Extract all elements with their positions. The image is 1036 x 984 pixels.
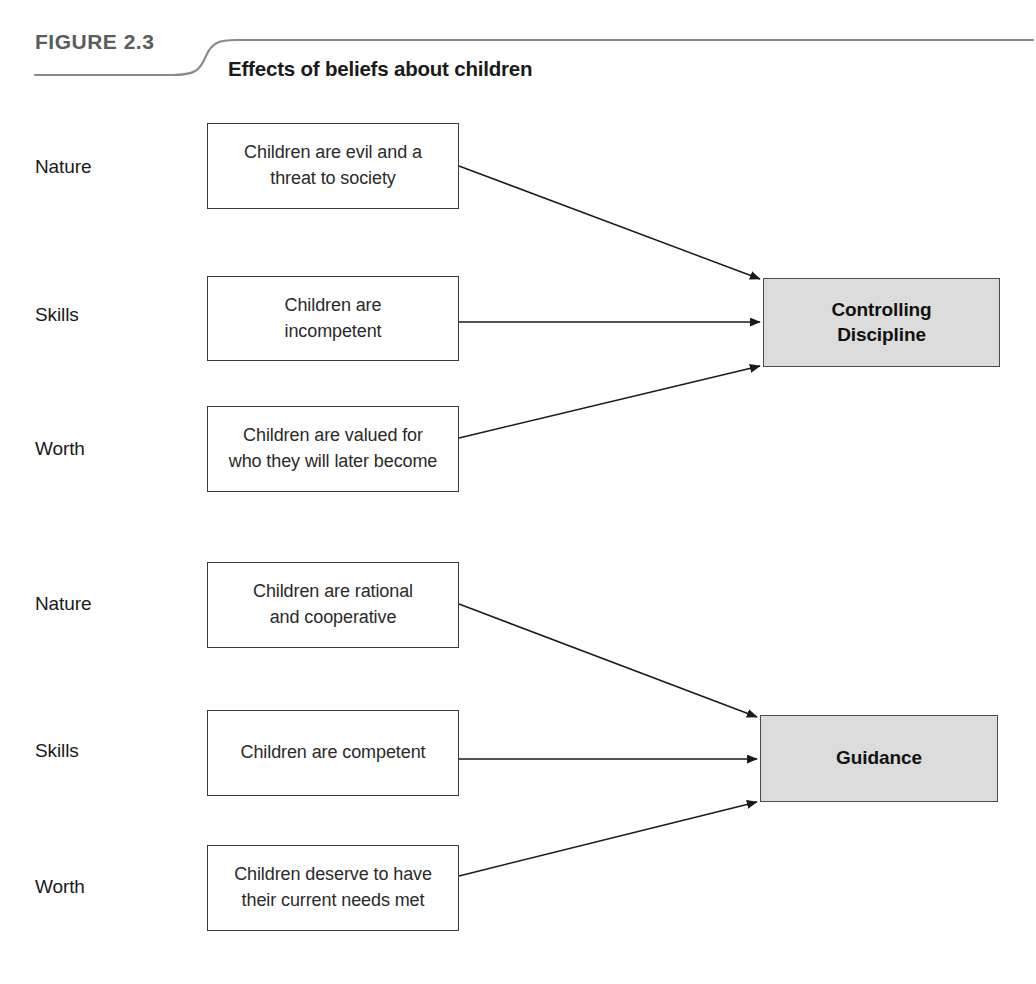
figure-label-prefix: FIGURE <box>35 30 117 53</box>
belief-box-worth-2[interactable]: Children deserve to have their current n… <box>207 845 459 931</box>
belief-line-1: Children are rational <box>253 581 413 601</box>
arrow-worth-to-controlling-discipline <box>459 366 760 438</box>
belief-text: Children are competent <box>235 740 432 766</box>
belief-text: Children are rational and cooperative <box>247 579 419 630</box>
belief-text: Children are evil and a threat to societ… <box>238 140 428 191</box>
belief-line-2: incompetent <box>285 321 382 341</box>
outcome-box-guidance[interactable]: Guidance <box>760 715 998 802</box>
outcome-line-1: Controlling <box>831 299 931 320</box>
belief-line-1: Children are competent <box>241 742 426 762</box>
belief-line-1: Children are evil and a <box>244 142 422 162</box>
figure-container: FIGURE 2.3 Effects of beliefs about chil… <box>0 0 1036 984</box>
belief-box-worth-1[interactable]: Children are valued for who they will la… <box>207 406 459 492</box>
belief-line-2: and cooperative <box>270 607 397 627</box>
belief-text: Children are valued for who they will la… <box>223 423 444 474</box>
belief-line-1: Children are <box>285 295 382 315</box>
belief-text: Children deserve to have their current n… <box>228 862 438 913</box>
row-label-skills-1: Skills <box>35 304 79 326</box>
belief-line-1: Children are valued for <box>243 425 423 445</box>
row-label-nature-2: Nature <box>35 593 91 615</box>
arrow-nature-to-guidance <box>459 604 757 717</box>
outcome-text: Controlling Discipline <box>831 298 931 347</box>
row-label-nature-1: Nature <box>35 156 91 178</box>
figure-label: FIGURE 2.3 <box>35 30 154 54</box>
figure-title: Effects of beliefs about children <box>228 57 532 81</box>
belief-line-1: Children deserve to have <box>234 864 432 884</box>
belief-box-nature-1[interactable]: Children are evil and a threat to societ… <box>207 123 459 209</box>
row-label-skills-2: Skills <box>35 740 79 762</box>
belief-line-2: who they will later become <box>229 451 438 471</box>
row-label-worth-2: Worth <box>35 876 85 898</box>
outcome-line-2: Discipline <box>837 324 926 345</box>
outcome-text: Guidance <box>836 746 922 771</box>
belief-box-nature-2[interactable]: Children are rational and cooperative <box>207 562 459 648</box>
row-label-worth-1: Worth <box>35 438 85 460</box>
outcome-line-1: Guidance <box>836 747 922 768</box>
belief-line-2: threat to society <box>270 168 395 188</box>
belief-box-skills-2[interactable]: Children are competent <box>207 710 459 796</box>
arrow-worth-to-guidance <box>459 802 757 876</box>
figure-number: 2.3 <box>124 30 155 53</box>
outcome-box-controlling-discipline[interactable]: Controlling Discipline <box>763 278 1000 367</box>
belief-line-2: their current needs met <box>242 890 425 910</box>
belief-text: Children are incompetent <box>279 293 388 344</box>
belief-box-skills-1[interactable]: Children are incompetent <box>207 276 459 361</box>
arrow-layer <box>0 0 1036 984</box>
arrow-nature-to-controlling-discipline <box>459 166 760 279</box>
